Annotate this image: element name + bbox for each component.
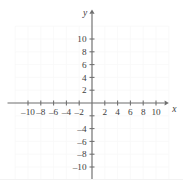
- x-tick-label: –4: [61, 107, 72, 117]
- y-tick-label: 8: [82, 47, 87, 57]
- y-tick-label: –8: [76, 149, 87, 159]
- x-tick-label: 4: [115, 107, 120, 117]
- x-tick-label: –2: [74, 107, 85, 117]
- y-axis-arrowhead: [89, 10, 94, 14]
- x-tick-label: 2: [103, 107, 108, 117]
- x-axis-arrowhead: [165, 100, 169, 105]
- x-axis-name: x: [171, 104, 177, 114]
- y-tick-label: –6: [76, 137, 87, 147]
- x-tick-label: 6: [128, 107, 133, 117]
- bottom-edge-rule: [0, 179, 183, 180]
- y-tick-label: –4: [76, 124, 87, 134]
- axis-name-labels: xy: [82, 8, 177, 114]
- y-axis-name: y: [82, 8, 88, 18]
- x-tick-label: –6: [48, 107, 59, 117]
- coordinate-plane-svg: –10–8–6–4–2246810–10–8–6–4246810 xy: [0, 0, 183, 180]
- y-tick-label: 2: [82, 85, 87, 95]
- coordinate-plane-figure: –10–8–6–4–2246810–10–8–6–4246810 xy: [0, 0, 183, 180]
- y-tick-label: 4: [82, 73, 87, 83]
- y-tick-label: 6: [82, 60, 87, 70]
- x-tick-label: 10: [151, 107, 161, 117]
- x-tick-label: 8: [141, 107, 146, 117]
- y-tick-label: –10: [72, 162, 87, 172]
- x-tick-label: –10: [20, 107, 35, 117]
- y-tick-label: 10: [77, 34, 87, 44]
- axes: [8, 10, 169, 180]
- x-tick-label: –8: [35, 107, 46, 117]
